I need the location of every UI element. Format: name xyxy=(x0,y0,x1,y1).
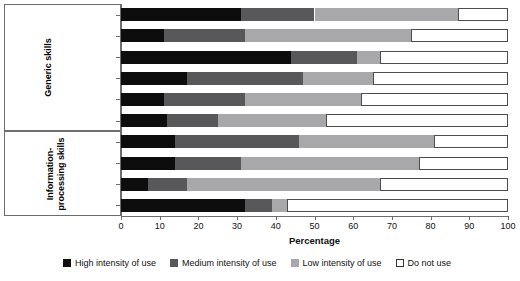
bar-segment-low xyxy=(357,51,380,64)
bar-segment-high xyxy=(121,51,291,64)
bar-segment-none xyxy=(380,51,508,64)
bar-row xyxy=(121,8,508,21)
chart-legend: High intensity of useMedium intensity of… xyxy=(0,258,514,268)
x-tick xyxy=(276,216,277,220)
x-tick-label: 10 xyxy=(145,221,175,231)
bar-segment-high xyxy=(121,29,164,42)
x-tick xyxy=(469,216,470,220)
bar-segment-low xyxy=(315,8,458,21)
bar-segment-none xyxy=(434,135,508,148)
bar-segment-none xyxy=(458,8,508,21)
bar-segment-none xyxy=(380,178,508,191)
x-tick xyxy=(392,216,393,220)
legend-item: Do not use xyxy=(396,258,452,268)
legend-label: Low intensity of use xyxy=(303,258,382,268)
x-tick-label: 40 xyxy=(261,221,291,231)
bar-segment-none xyxy=(373,72,508,85)
bar-segment-medium xyxy=(175,157,241,170)
bar-row xyxy=(121,178,508,191)
bar-segment-low xyxy=(245,29,411,42)
bar-segment-low xyxy=(241,157,419,170)
x-tick-label: 60 xyxy=(338,221,368,231)
x-tick-label: 100 xyxy=(493,221,520,231)
x-tick-label: 30 xyxy=(222,221,252,231)
x-tick-label: 20 xyxy=(183,221,213,231)
group-label-information-processing-skills: Information-processing skills xyxy=(5,132,130,215)
bar-segment-none xyxy=(287,199,508,212)
x-tick-label: 90 xyxy=(454,221,484,231)
bar-segment-medium xyxy=(148,178,187,191)
x-tick xyxy=(353,216,354,220)
legend-label: High intensity of use xyxy=(75,258,156,268)
bar-segment-medium xyxy=(167,114,217,127)
bar-segment-high xyxy=(121,178,148,191)
x-tick xyxy=(315,216,316,220)
bar-segment-high xyxy=(121,114,167,127)
bar-segment-high xyxy=(121,8,241,21)
legend-swatch-low-icon xyxy=(291,259,299,267)
bar-row xyxy=(121,135,508,148)
x-tick-label: 0 xyxy=(106,221,136,231)
bar-segment-low xyxy=(272,199,287,212)
bar-segment-high xyxy=(121,199,245,212)
bar-row xyxy=(121,157,508,170)
x-tick xyxy=(121,216,122,220)
category-group-information-processing-skills: Information-processing skills xyxy=(4,131,121,216)
x-tick xyxy=(198,216,199,220)
x-tick-label: 70 xyxy=(377,221,407,231)
bar-segment-none xyxy=(411,29,508,42)
bar-segment-medium xyxy=(291,51,357,64)
x-tick xyxy=(237,216,238,220)
legend-item: High intensity of use xyxy=(63,258,156,268)
bar-segment-medium xyxy=(164,93,245,106)
legend-swatch-medium-icon xyxy=(170,259,178,267)
x-tick-label: 80 xyxy=(416,221,446,231)
bar-segment-medium xyxy=(245,199,272,212)
bar-segment-low xyxy=(187,178,381,191)
bar-segment-high xyxy=(121,72,187,85)
x-tick xyxy=(508,216,509,220)
bar-segment-medium xyxy=(187,72,303,85)
bar-segment-none xyxy=(326,114,508,127)
legend-item: Low intensity of use xyxy=(291,258,382,268)
bar-row xyxy=(121,72,508,85)
x-tick xyxy=(431,216,432,220)
x-tick-label: 50 xyxy=(300,221,330,231)
bar-segment-none xyxy=(419,157,508,170)
legend-swatch-none-icon xyxy=(396,259,404,267)
bar-segment-low xyxy=(303,72,373,85)
bar-row xyxy=(121,199,508,212)
bar-segment-medium xyxy=(175,135,299,148)
legend-label: Do not use xyxy=(408,258,452,268)
bar-segment-low xyxy=(218,114,326,127)
bar-row xyxy=(121,29,508,42)
bar-segment-none xyxy=(361,93,508,106)
legend-swatch-high-icon xyxy=(63,259,71,267)
bar-segment-medium xyxy=(241,8,315,21)
bar-segment-low xyxy=(245,93,361,106)
bar-row xyxy=(121,51,508,64)
legend-item: Medium intensity of use xyxy=(170,258,277,268)
bar-row xyxy=(121,93,508,106)
bar-segment-medium xyxy=(164,29,245,42)
legend-label: Medium intensity of use xyxy=(182,258,277,268)
category-group-generic-skills: Generic skills xyxy=(4,4,121,131)
bar-segment-low xyxy=(299,135,434,148)
x-tick xyxy=(160,216,161,220)
bar-segment-high xyxy=(121,157,175,170)
plot-area xyxy=(121,4,508,216)
bar-row xyxy=(121,114,508,127)
bar-segment-high xyxy=(121,93,164,106)
x-axis-title: Percentage xyxy=(121,235,508,246)
group-label-generic-skills: Generic skills xyxy=(5,5,134,130)
bar-segment-high xyxy=(121,135,175,148)
